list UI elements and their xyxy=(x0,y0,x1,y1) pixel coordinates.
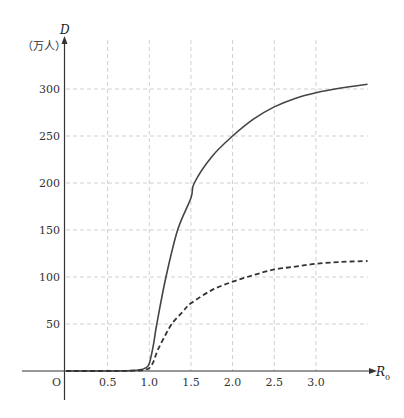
series-line-dashed xyxy=(66,261,368,371)
y-tick-label: 200 xyxy=(39,177,60,190)
tick-labels: 501001502002503000.51.01.52.02.53.0 xyxy=(39,83,325,389)
chart: 501001502002503000.51.01.52.02.53.0 O D … xyxy=(0,0,404,418)
x-tick-label: 2.0 xyxy=(224,376,242,389)
x-axis-title: R0 xyxy=(375,365,390,382)
y-tick-label: 150 xyxy=(39,224,60,237)
origin-label: O xyxy=(52,376,61,389)
y-tick-label: 100 xyxy=(39,271,60,284)
grid xyxy=(66,40,368,371)
x-axis-title-sub: 0 xyxy=(385,373,390,382)
x-tick-label: 1.5 xyxy=(182,376,200,389)
x-tick-label: 2.5 xyxy=(266,376,284,389)
series-line-solid xyxy=(66,84,368,371)
y-tick-label: 300 xyxy=(39,83,60,96)
y-tick-label: 250 xyxy=(39,130,60,143)
y-axis-title: D xyxy=(59,23,70,37)
x-tick-label: 0.5 xyxy=(99,376,117,389)
x-axis-title-main: R xyxy=(375,365,385,379)
y-axis-unit: （万人） xyxy=(22,40,66,53)
series xyxy=(66,84,368,371)
y-tick-label: 50 xyxy=(46,318,60,331)
x-tick-label: 3.0 xyxy=(307,376,325,389)
x-tick-label: 1.0 xyxy=(141,376,159,389)
